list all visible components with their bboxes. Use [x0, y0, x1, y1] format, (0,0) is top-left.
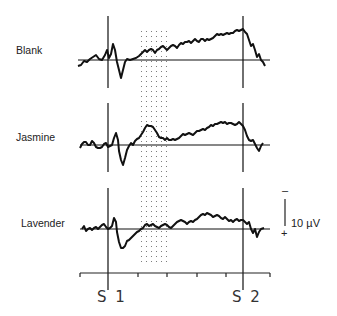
erp-figure: Blank Jasmine Lavender S 1 S 2 – + 10 µV	[0, 0, 337, 316]
trace-lavender	[82, 213, 264, 248]
label-jasmine: Jasmine	[16, 131, 55, 143]
scale-bar: – + 10 µV	[281, 184, 321, 239]
scale-plus: +	[281, 227, 287, 239]
label-lavender: Lavender	[21, 217, 65, 229]
label-blank: Blank	[16, 44, 43, 56]
scale-minus: –	[282, 184, 289, 196]
scale-value: 10 µV	[291, 217, 321, 229]
label-s2: S 2	[232, 288, 262, 306]
label-s1: S 1	[97, 288, 127, 306]
trace-blank	[78, 29, 265, 78]
